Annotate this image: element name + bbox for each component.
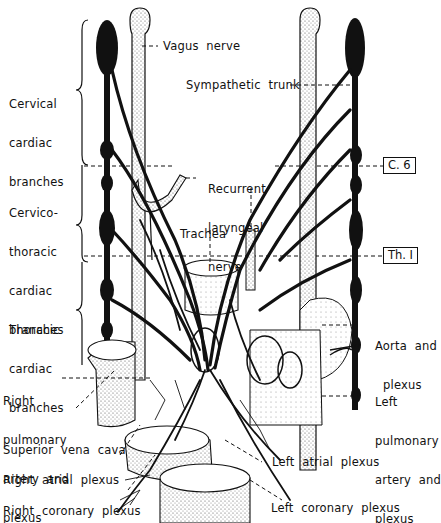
label-sympathetic-trunk: Sympathetic trunk <box>186 79 300 92</box>
label-line: thoracic <box>9 246 64 259</box>
left-sympathetic-trunk <box>96 20 118 340</box>
label-line: pulmonary <box>375 435 441 448</box>
label-line: cardiac <box>9 285 64 298</box>
label-line: Right <box>3 395 69 408</box>
level-th1-box: Th. I <box>383 247 418 264</box>
label-line: Recurrent <box>208 183 266 196</box>
label-vagus-nerve: Vagus nerve <box>163 40 240 53</box>
label-superior-vena-cava: Superior vena cava <box>3 444 126 457</box>
label-line: Cervical <box>9 98 64 111</box>
label-trachea: Trachea <box>180 228 226 241</box>
label-line: Aorta and <box>375 340 437 353</box>
level-c6-box: C. 6 <box>383 157 416 174</box>
label-line: Cervico- <box>9 207 64 220</box>
anatomy-diagram: Cervical cardiac branches Cervico- thora… <box>0 0 441 523</box>
label-line: Left <box>375 396 441 409</box>
label-line: cardiac <box>9 137 64 150</box>
label-right-coronary-plexus: Right coronary plexus <box>3 505 141 518</box>
label-line: nerve <box>208 261 266 274</box>
label-line: artery and <box>375 474 441 487</box>
label-line: Thoracic <box>9 324 64 337</box>
label-left-atrial-plexus: Left atrial plexus <box>272 456 379 469</box>
group-brackets <box>76 20 88 365</box>
label-left-coronary-plexus: Left coronary plexus <box>271 502 400 515</box>
label-right-atrial-plexus: Right atrial plexus <box>3 474 119 487</box>
